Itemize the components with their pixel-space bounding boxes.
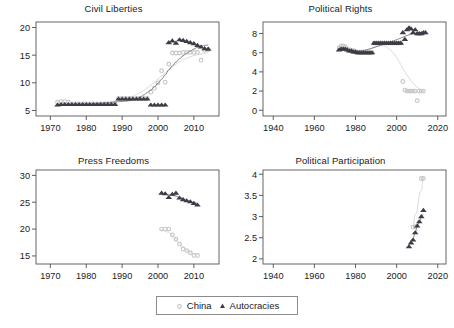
data-point-autocracies — [418, 214, 425, 218]
data-point-china — [196, 254, 200, 258]
plot-area-political-rights: 0246819401960198020002020 — [227, 0, 454, 152]
trend-line-autocracies — [409, 214, 423, 244]
y-tick-label: 5 — [25, 106, 30, 116]
data-point-autocracies — [416, 219, 423, 223]
data-point-autocracies — [412, 230, 419, 234]
triangle-marker-icon — [218, 301, 227, 310]
plot-frame — [263, 170, 446, 264]
x-tick-label: 1940 — [263, 271, 283, 281]
panel-political-participation: Political Participation 22.533.541940196… — [227, 152, 454, 296]
data-point-china — [196, 51, 200, 55]
x-tick-label: 1980 — [345, 123, 365, 133]
data-point-autocracies — [406, 244, 413, 248]
small-multiples-figure: Civil Liberties 510152019701980199020002… — [0, 0, 454, 328]
legend-label-china: China — [187, 300, 212, 311]
y-tick-label: 20 — [20, 224, 30, 234]
plot-area-political-participation: 22.533.5419401960198020002020 — [227, 152, 454, 296]
panel-political-rights: Political Rights 02468194019601980200020… — [227, 0, 454, 152]
data-point-autocracies — [173, 191, 180, 195]
y-tick-label: 20 — [20, 23, 30, 33]
y-tick-label: 2 — [252, 86, 257, 96]
y-tick-label: 6 — [252, 48, 257, 58]
data-point-china — [401, 80, 405, 84]
y-tick-label: 2.5 — [244, 233, 257, 243]
plot-frame — [36, 170, 219, 264]
panel-civil-liberties: Civil Liberties 510152019701980199020002… — [0, 0, 227, 152]
trend-line-china — [58, 53, 209, 103]
panel-press-freedoms: Press Freedoms 1520253019701980199020002… — [0, 152, 227, 296]
x-tick-label: 2020 — [428, 271, 448, 281]
y-tick-label: 30 — [20, 171, 30, 181]
data-point-china — [171, 233, 175, 237]
data-point-autocracies — [410, 237, 417, 241]
x-tick-label: 1970 — [40, 271, 60, 281]
y-tick-label: 15 — [20, 51, 30, 61]
y-tick-label: 3.5 — [244, 191, 257, 201]
y-tick-label: 2 — [252, 254, 257, 264]
x-tick-label: 2020 — [428, 123, 448, 133]
y-tick-label: 4 — [252, 170, 257, 180]
x-tick-label: 1940 — [263, 123, 283, 133]
data-point-autocracies — [420, 208, 427, 212]
x-tick-label: 1990 — [112, 271, 132, 281]
y-tick-label: 25 — [20, 198, 30, 208]
x-tick-label: 1980 — [345, 271, 365, 281]
y-tick-label: 4 — [252, 67, 257, 77]
x-tick-label: 2000 — [148, 123, 168, 133]
x-tick-label: 1990 — [112, 123, 132, 133]
y-tick-label: 8 — [252, 29, 257, 39]
x-tick-label: 2000 — [386, 271, 406, 281]
y-tick-label: 15 — [20, 251, 30, 261]
x-tick-label: 1960 — [304, 123, 324, 133]
y-tick-label: 0 — [252, 106, 257, 116]
x-tick-label: 1980 — [76, 271, 96, 281]
x-tick-label: 2000 — [148, 271, 168, 281]
legend: China Autocracies — [156, 296, 298, 315]
y-tick-label: 10 — [20, 78, 30, 88]
data-point-china — [167, 62, 171, 66]
plot-area-civil-liberties: 510152019701980199020002010 — [0, 0, 227, 152]
data-point-china — [178, 242, 182, 246]
y-tick-label: 3 — [252, 212, 257, 222]
legend-label-autocracies: Autocracies — [230, 300, 280, 311]
x-tick-label: 2010 — [184, 271, 204, 281]
data-point-china — [160, 69, 164, 73]
legend-entry-autocracies: Autocracies — [218, 300, 280, 311]
x-tick-label: 2000 — [386, 123, 406, 133]
data-point-china — [415, 99, 419, 103]
circle-marker-icon — [175, 301, 184, 310]
x-tick-label: 1980 — [76, 123, 96, 133]
data-point-china — [199, 58, 203, 62]
trend-line-autocracies — [58, 45, 209, 105]
data-point-china — [188, 251, 192, 255]
x-tick-label: 1970 — [40, 123, 60, 133]
plot-area-press-freedoms: 1520253019701980199020002010 — [0, 152, 227, 296]
data-point-china — [185, 249, 189, 253]
x-tick-label: 2010 — [184, 123, 204, 133]
x-tick-label: 1960 — [304, 271, 324, 281]
legend-entry-china: China — [175, 300, 212, 311]
data-point-autocracies — [169, 38, 176, 42]
data-point-china — [167, 227, 171, 231]
data-point-china — [163, 80, 167, 84]
trend-line-china — [413, 178, 423, 227]
